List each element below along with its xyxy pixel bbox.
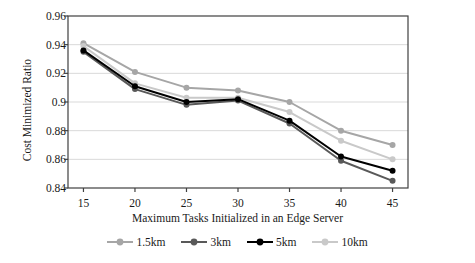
data-point: [338, 153, 344, 159]
y-tick-label: 0.92: [30, 67, 66, 79]
legend-swatch-icon: [312, 237, 338, 247]
data-point: [390, 178, 396, 184]
series-line: [83, 43, 392, 145]
y-tick-label: 0.94: [30, 39, 66, 51]
data-point: [390, 142, 396, 148]
legend-item-3km[interactable]: 3km: [181, 236, 230, 248]
y-tick-label: 0.9: [30, 96, 66, 108]
x-tick-label: 45: [373, 197, 413, 209]
x-tick-label: 20: [115, 197, 155, 209]
legend-label: 3km: [210, 236, 230, 248]
chart-svg: [68, 16, 408, 188]
y-tick-label: 0.84: [30, 182, 66, 194]
x-tick-label: 35: [270, 197, 310, 209]
series-3km: [80, 49, 395, 184]
data-point: [338, 128, 344, 134]
x-tick-label: 15: [63, 197, 103, 209]
data-point: [235, 96, 241, 102]
y-tick-label: 0.96: [30, 10, 66, 22]
series-line: [83, 52, 392, 181]
data-point: [132, 69, 138, 75]
data-point: [183, 85, 189, 91]
series-5km: [80, 47, 395, 173]
x-tick-label: 40: [321, 197, 361, 209]
legend-item-10km[interactable]: 10km: [312, 236, 367, 248]
legend-swatch-icon: [107, 237, 133, 247]
x-tick-label: 25: [166, 197, 206, 209]
data-point: [80, 47, 86, 53]
data-point: [390, 156, 396, 162]
plot-area: [68, 16, 408, 188]
data-point: [287, 99, 293, 105]
data-point: [183, 99, 189, 105]
data-point: [287, 118, 293, 124]
legend-label: 5km: [276, 236, 296, 248]
legend-label: 10km: [341, 236, 367, 248]
data-point: [132, 83, 138, 89]
series-1-5km: [80, 40, 395, 148]
x-axis-title: Maximum Tasks Initialized in an Edge Ser…: [0, 212, 475, 224]
x-tick-label: 30: [218, 197, 258, 209]
legend-item-1-5km[interactable]: 1.5km: [107, 236, 165, 248]
data-point: [338, 138, 344, 144]
data-point: [235, 88, 241, 94]
legend-item-5km[interactable]: 5km: [247, 236, 296, 248]
y-tick-label: 0.88: [30, 125, 66, 137]
data-point: [390, 168, 396, 174]
legend-swatch-icon: [247, 237, 273, 247]
chart-legend: 1.5km3km5km10km: [0, 236, 475, 248]
chart-figure: Cost Minimized Ratio 0.960.940.920.90.88…: [0, 0, 475, 263]
legend-swatch-icon: [181, 237, 207, 247]
data-point: [287, 109, 293, 115]
legend-label: 1.5km: [136, 236, 165, 248]
y-tick-label: 0.86: [30, 153, 66, 165]
